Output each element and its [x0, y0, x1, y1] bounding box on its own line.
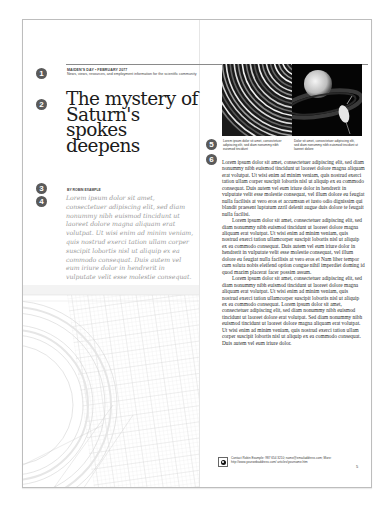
callout-badge-5: 5: [206, 139, 217, 150]
callout-badge-3: 3: [36, 183, 47, 194]
caption-right: Dolor sit amet, consectetuer adipiscing …: [294, 139, 360, 151]
callout-badge-4: 4: [36, 196, 47, 207]
magazine-spread: 1 2 3 4 5 6 MAIDEN'S DAY • FEBRUARY 2077…: [22, 19, 372, 488]
page-number: 5: [356, 464, 358, 469]
body-paragraph: Lorem ipsum dolor sit amet, consectetuer…: [222, 217, 365, 275]
callout-badge-1: 1: [36, 68, 47, 79]
saturn-cassini-photo: [292, 64, 362, 136]
photo-pair: [222, 64, 362, 136]
masthead: MAIDEN'S DAY • FEBRUARY 2077 News, views…: [67, 68, 197, 77]
body-paragraph: Lorem ipsum dolor sit amet, consectetuer…: [222, 159, 365, 217]
contact-text: Contact Robin Example: 987 654 3210; nam…: [231, 457, 349, 465]
article-title: The mystery of Saturn's spokes deepens: [66, 91, 201, 153]
background-grid-artwork: [23, 285, 199, 488]
article-body: Lorem ipsum dolor sit amet, consectetuer…: [222, 159, 365, 346]
callout-badge-2: 2: [36, 99, 47, 110]
contact-footer: Contact Robin Example: 987 654 3210; nam…: [218, 457, 368, 473]
byline: BY ROBIN EXAMPLE: [67, 188, 101, 192]
contact-icon: [218, 457, 228, 467]
callout-badge-6: 6: [206, 154, 217, 165]
body-paragraph: Lorem ipsum dolor sit amet, consectetuer…: [222, 275, 365, 346]
saturn-rings-photo: [222, 64, 292, 136]
masthead-tagline: News, views, resources, and employment i…: [67, 72, 197, 76]
caption-left: Lorem ipsum dolor sit amet, consectetuer…: [223, 139, 289, 151]
article-deck: Lorem ipsum dolor sit amet, consectetuer…: [66, 194, 196, 282]
